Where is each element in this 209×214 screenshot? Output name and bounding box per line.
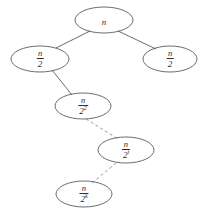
tree-canvas (0, 0, 209, 214)
tree-node-level-i (98, 137, 154, 163)
recursion-tree-diagram: nn2n2n22n2in2k (0, 0, 209, 214)
tree-node-right-1 (143, 46, 197, 72)
tree-edge-left-2-to-level-i (86, 119, 118, 139)
tree-edge-level-i-to-level-k (92, 163, 116, 183)
tree-node-left-2 (55, 93, 111, 119)
node-ellipses-group (11, 7, 197, 207)
edges-group (52, 31, 156, 183)
tree-node-root (75, 7, 133, 33)
tree-node-level-k (56, 181, 112, 207)
tree-edge-root-to-right-1 (118, 31, 156, 49)
tree-edge-root-to-left-1 (56, 31, 90, 48)
tree-edge-left-1-to-left-2 (52, 70, 72, 95)
tree-node-left-1 (11, 46, 69, 72)
